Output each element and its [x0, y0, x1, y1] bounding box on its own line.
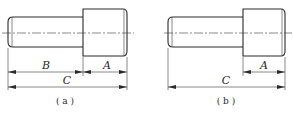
dimension-label-b: B: [41, 59, 50, 72]
dimension-a: A: [243, 59, 285, 72]
dimension-label-a: A: [259, 59, 268, 72]
dimension-c: C: [168, 74, 285, 87]
shaft-small-diameter: [168, 17, 243, 47]
figure-a: B A C ( a ): [2, 9, 134, 106]
dimension-label-c: C: [63, 74, 72, 87]
stepped-shaft-dimensioning-diagram: B A C ( a ) A: [0, 0, 293, 113]
figure-caption-a: ( a ): [56, 96, 74, 106]
shaft-large-diameter: [243, 9, 285, 56]
shaft-large-diameter: [83, 9, 127, 56]
dimension-c: C: [8, 74, 127, 87]
dimension-label-a: A: [102, 59, 111, 72]
dimension-b: B: [8, 59, 83, 72]
figure-b: A C ( b ): [164, 9, 292, 106]
dimension-a: A: [83, 59, 127, 72]
figure-caption-b: ( b ): [217, 96, 236, 106]
dimension-label-c: C: [222, 74, 231, 87]
shaft-small-diameter: [8, 17, 83, 47]
